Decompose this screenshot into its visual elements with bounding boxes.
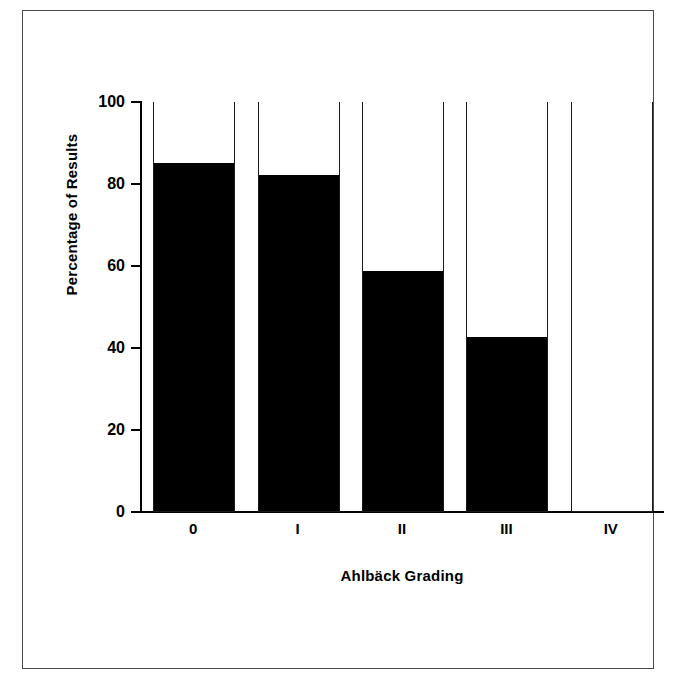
y-axis-tick-label: 60 — [67, 258, 125, 274]
y-axis-tick-label: 40 — [67, 340, 125, 356]
bar-II — [362, 102, 444, 512]
y-axis-title: Percentage of Results — [63, 105, 80, 325]
y-axis-tick-label: 20 — [67, 422, 125, 438]
y-axis-tick-mark — [131, 429, 141, 431]
bar-segment-filled — [363, 271, 443, 511]
bar-segment-filled — [154, 163, 234, 512]
bar-I — [258, 102, 340, 512]
bar-III — [466, 102, 548, 512]
y-axis-tick-mark — [131, 265, 141, 267]
bar-0 — [153, 102, 235, 512]
bar-segment-filled — [259, 175, 339, 511]
y-axis-tick-mark — [131, 101, 141, 103]
bar-segment-open — [259, 101, 339, 175]
y-axis-tick-mark — [131, 183, 141, 185]
y-axis-tick-mark — [131, 347, 141, 349]
x-axis-tick-label-II: II — [350, 521, 454, 536]
y-axis-tick-label: 100 — [67, 94, 125, 110]
bar-IV — [571, 102, 653, 512]
x-axis-tick-label-0: 0 — [141, 521, 245, 536]
x-axis-tick-label-I: I — [246, 521, 350, 536]
bar-segment-open — [154, 101, 234, 163]
bar-segment-open — [467, 101, 547, 337]
y-axis-tick-mark — [131, 511, 141, 513]
x-axis-tick-label-III: III — [454, 521, 558, 536]
y-axis-tick-label: 80 — [67, 176, 125, 192]
bar-segment-open — [363, 101, 443, 271]
plot-area — [141, 102, 663, 512]
bar-segment-open — [572, 101, 652, 511]
figure-border-frame: Percentage of Results Ahlbäck Grading 02… — [22, 10, 654, 669]
y-axis-tick-label: 0 — [67, 504, 125, 520]
x-axis-title: Ahlbäck Grading — [141, 567, 663, 584]
figure-root: Percentage of Results Ahlbäck Grading 02… — [0, 0, 673, 684]
bar-segment-filled — [467, 337, 547, 511]
x-axis-tick-label-IV: IV — [559, 521, 663, 536]
